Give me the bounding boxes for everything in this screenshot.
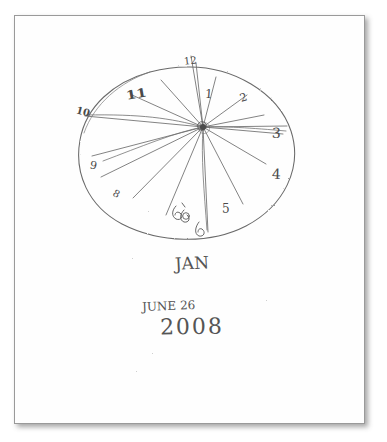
scan-speck xyxy=(152,353,153,354)
clock-numeral-12: 12 xyxy=(184,55,198,66)
scan-speck xyxy=(266,300,267,301)
clock-numeral-1: 1 xyxy=(205,88,213,101)
clock-numeral-3: 3 xyxy=(272,126,281,140)
scan-speck xyxy=(148,211,149,212)
scan-speck xyxy=(132,258,133,259)
signature-jan: JAN xyxy=(175,254,210,273)
paper-sheet xyxy=(14,15,365,424)
scan-speck xyxy=(136,371,137,372)
clock-numeral-4: 4 xyxy=(272,167,281,181)
scanned-clock-drawing: 12 1 2 3 4 5 6 6 7 8 9 10 11 JAN JUNE 26… xyxy=(0,0,387,442)
clock-numeral-11: 11 xyxy=(125,86,148,101)
scan-speck xyxy=(260,88,261,89)
date-year: 2008 xyxy=(160,315,224,338)
scan-speck xyxy=(84,130,85,131)
clock-numeral-5: 5 xyxy=(222,203,230,215)
date-month-day: JUNE 26 xyxy=(142,299,196,313)
